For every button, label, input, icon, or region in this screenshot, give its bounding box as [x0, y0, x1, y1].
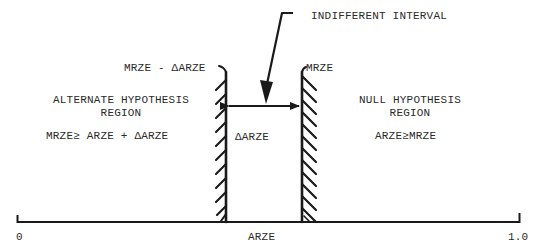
diagram-graphics: [0, 0, 539, 251]
right-boundary-label: MRZE: [306, 62, 333, 75]
null-region-title: NULL HYPOTHESIS REGION: [345, 94, 475, 120]
axis-max-label: 1.0: [508, 231, 528, 244]
alternate-region-title: ALTERNATE HYPOTHESIS REGION: [38, 94, 204, 120]
alternate-region-condition: MRZE≥ ARZE + ΔARZE: [46, 130, 168, 143]
indifferent-interval-pointer: [260, 13, 293, 104]
x-axis: [17, 213, 520, 223]
right-boundary-wall: [302, 67, 316, 222]
left-boundary-wall: [216, 66, 226, 222]
alternate-region-title-line1: ALTERNATE HYPOTHESIS: [38, 94, 204, 107]
indifferent-interval-label: INDIFFERENT INTERVAL: [311, 10, 447, 23]
hypothesis-region-diagram: INDIFFERENT INTERVAL MRZE - ΔARZE MRZE A…: [0, 0, 539, 251]
axis-min-label: 0: [16, 231, 23, 244]
interval-width-label: ΔARZE: [235, 131, 269, 144]
alternate-region-title-line2: REGION: [38, 107, 204, 120]
left-boundary-label: MRZE - ΔARZE: [124, 62, 206, 75]
null-region-condition: ARZE≥MRZE: [375, 130, 436, 143]
null-region-title-line2: REGION: [345, 107, 475, 120]
left-boundary-text: MRZE - ΔARZE: [124, 62, 206, 74]
axis-label: ARZE: [248, 231, 275, 244]
null-region-title-line1: NULL HYPOTHESIS: [345, 94, 475, 107]
